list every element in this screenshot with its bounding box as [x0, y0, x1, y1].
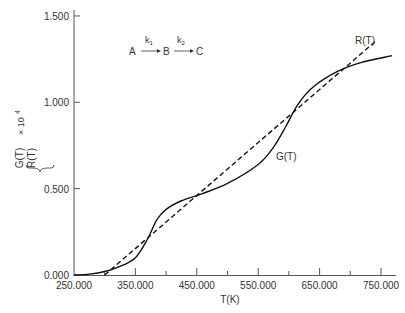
x-tick-label: 550.000 [240, 280, 277, 291]
rate-k1: k1 [145, 35, 154, 46]
plot-area [74, 42, 392, 275]
x-tick-label: 650.000 [302, 280, 339, 291]
x-tick-label: 750.000 [363, 280, 400, 291]
species-c: C [196, 46, 203, 57]
y-label-factor: × 10 [16, 117, 26, 135]
label-g-curve: G(T) [276, 151, 297, 162]
kinetics-chart: 0.0000.5001.0001.500 250.000350.000450.0… [0, 0, 405, 313]
y-axis: 0.0000.5001.0001.500 [44, 10, 80, 281]
species-b: B [163, 46, 170, 57]
y-tick-label: 1.000 [44, 97, 69, 108]
x-tick-label: 350.000 [117, 280, 154, 291]
species-a: A [129, 46, 136, 57]
y-label-r: R(T) [26, 148, 37, 168]
arrow-head-icon [190, 49, 194, 53]
y-axis-label: G(T) R(T) × 10 4 [14, 110, 54, 172]
y-tick-label: 1.500 [44, 11, 69, 22]
x-axis-label: T(K) [220, 294, 239, 305]
y-label-exponent: 4 [14, 110, 21, 114]
rate-k2: k2 [177, 35, 186, 46]
x-tick-label: 450.000 [179, 280, 216, 291]
arrow-head-icon [157, 49, 161, 53]
y-tick-label: 0.500 [44, 184, 69, 195]
x-tick-label: 250.000 [56, 280, 93, 291]
series-g-line [74, 56, 392, 275]
y-label-g: G(T) [14, 148, 25, 169]
series-r-line [105, 42, 375, 275]
label-r-curve: R(T) [355, 35, 375, 46]
reaction-scheme: A k1 B k2 C [129, 35, 203, 57]
